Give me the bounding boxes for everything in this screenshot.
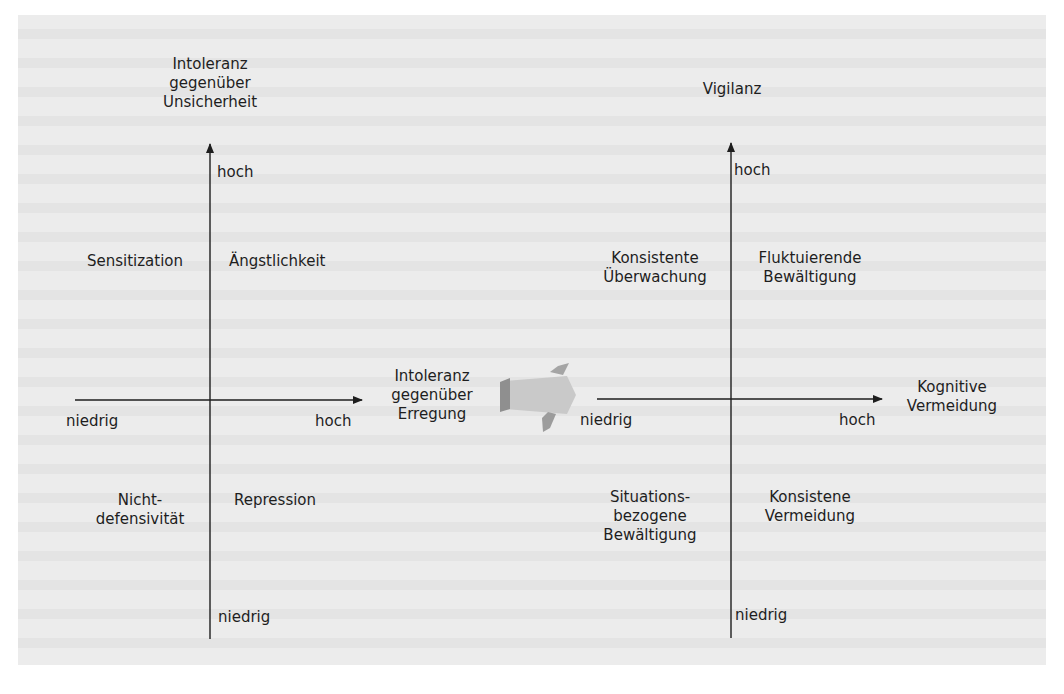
quadrant-top-right-label: Ängstlichkeit — [229, 252, 326, 271]
coping-model-diagrams: Intoleranz gegenüber Unsicherheit hoch S… — [0, 0, 1064, 694]
right-y-high-label: hoch — [734, 161, 770, 180]
quadrant-top-left-label: Sensitization — [70, 252, 200, 271]
left-y-high-label: hoch — [217, 163, 253, 182]
quadrant-top-left-label-right: Konsistente Überwachung — [580, 249, 730, 287]
block-arrow-right-icon — [500, 363, 576, 432]
quadrant-bottom-left-label: Nicht- defensivität — [80, 491, 200, 529]
right-x-low-label: niedrig — [580, 411, 632, 430]
right-x-high-label: hoch — [839, 411, 875, 430]
quadrant-bottom-left-label-right: Situations- bezogene Bewältigung — [590, 488, 710, 545]
right-y-axis-title: Vigilanz — [672, 80, 792, 99]
quadrant-bottom-right-label-right: Konsistene Vermeidung — [750, 488, 870, 526]
left-x-high-label: hoch — [315, 412, 351, 431]
left-x-axis-title: Intoleranz gegenüber Erregung — [372, 367, 492, 424]
right-y-low-label: niedrig — [735, 606, 787, 625]
left-y-low-label: niedrig — [218, 608, 270, 627]
quadrant-bottom-right-label: Repression — [234, 491, 316, 510]
quadrant-top-right-label-right: Fluktuierende Bewältigung — [745, 249, 875, 287]
right-x-axis-title: Kognitive Vermeidung — [892, 378, 1012, 416]
left-y-axis-title: Intoleranz gegenüber Unsicherheit — [140, 55, 280, 112]
left-x-low-label: niedrig — [66, 412, 118, 431]
